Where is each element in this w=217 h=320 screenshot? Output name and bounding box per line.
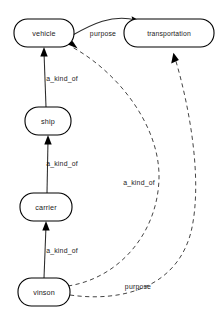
edge-curve bbox=[70, 58, 196, 297]
node-vehicle[interactable]: vehicle bbox=[14, 19, 74, 47]
node-transportation[interactable]: transportation bbox=[124, 19, 214, 47]
semantic-network-diagram: a_kind_of a_kind_of a_kind_of purpose a_… bbox=[0, 0, 217, 320]
edge-label-vinson-carrier: a_kind_of bbox=[46, 247, 78, 255]
edge-vinson-to-transportation: purpose bbox=[70, 53, 196, 297]
node-label-vinson: vinson bbox=[33, 288, 55, 297]
diagram-canvas: a_kind_of a_kind_of a_kind_of purpose a_… bbox=[0, 0, 217, 320]
arrow-head-icon bbox=[40, 47, 47, 56]
edge-label-vinson-transportation: purpose bbox=[125, 283, 151, 291]
edge-ship-to-vehicle: a_kind_of bbox=[40, 47, 78, 107]
node-carrier[interactable]: carrier bbox=[20, 193, 72, 221]
node-ship[interactable]: ship bbox=[25, 107, 71, 135]
edge-carrier-to-ship: a_kind_of bbox=[44, 135, 78, 193]
node-label-carrier: carrier bbox=[35, 203, 57, 212]
edge-label-ship-vehicle: a_kind_of bbox=[46, 75, 78, 83]
node-label-ship: ship bbox=[41, 117, 55, 126]
node-label-vehicle: vehicle bbox=[32, 29, 55, 38]
edge-curve bbox=[68, 47, 159, 286]
edge-line bbox=[47, 140, 48, 193]
edge-label-vinson-vehicle: a_kind_of bbox=[123, 179, 155, 187]
arrow-head-icon bbox=[44, 135, 51, 144]
edge-label-carrier-ship: a_kind_of bbox=[46, 160, 78, 168]
node-vinson[interactable]: vinson bbox=[18, 278, 70, 306]
node-label-transportation: transportation bbox=[147, 30, 191, 38]
edge-vinson-to-carrier: a_kind_of bbox=[42, 221, 78, 278]
edge-vinson-to-vehicle: a_kind_of bbox=[67, 41, 159, 286]
arrow-head-icon bbox=[42, 221, 49, 230]
arrow-head-icon bbox=[171, 53, 179, 64]
edge-label-vehicle-transportation: purpose bbox=[90, 30, 116, 38]
